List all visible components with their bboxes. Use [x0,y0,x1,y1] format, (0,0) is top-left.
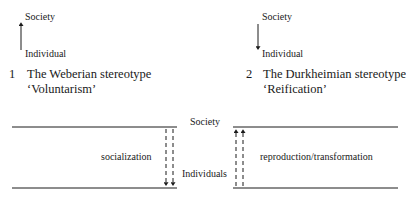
bottom-society-label: Society [190,117,220,127]
panel1-individual-label: Individual [25,49,66,59]
panel1-number: 1 [9,68,15,81]
panel2-title: The Durkheimian stereotype [263,68,406,81]
panel2-individual-label: Individual [262,49,303,59]
reproduction-transformation-label: reproduction/transformation [260,152,373,162]
panel1-society-label: Society [25,12,55,22]
panel2-number: 2 [246,68,252,81]
socialization-label: socialization [101,152,152,162]
panel2-subtitle: ‘Reification’ [263,83,327,96]
panel1-subtitle: ‘Voluntarism’ [27,83,96,96]
bottom-individuals-label: Individuals [182,169,227,179]
panel1-title: The Weberian stereotype [27,68,151,81]
panel2-society-label: Society [262,12,292,22]
